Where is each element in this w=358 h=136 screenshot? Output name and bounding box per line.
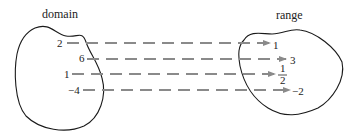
range-label: range: [276, 8, 303, 22]
function-mapping-diagram: domain range 2 6 1 −4 1 3 1 2 −2: [0, 0, 358, 136]
domain-element-neg4: −4: [68, 84, 80, 96]
range-element-neg2: −2: [292, 85, 304, 97]
range-set-outline: [239, 30, 343, 115]
range-element-1: 1: [273, 39, 279, 51]
fraction-numerator: 1: [280, 62, 286, 74]
fraction-denominator: 2: [280, 74, 286, 86]
domain-element-1: 1: [64, 68, 70, 80]
domain-label: domain: [42, 7, 78, 21]
range-element-one-half: 1 2: [278, 62, 287, 86]
domain-element-6: 6: [79, 52, 85, 64]
domain-element-2: 2: [57, 37, 63, 49]
range-element-3: 3: [290, 54, 296, 66]
